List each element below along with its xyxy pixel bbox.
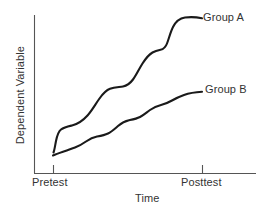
x-axis-title: Time [135,192,159,204]
x-tick-label-posttest: Posttest [181,176,222,188]
series-label-group-b: Group B [205,83,247,95]
series-line-group-a [54,17,203,152]
line-chart-figure: Group A Group B Pretest Posttest Time De… [0,0,267,215]
x-tick-label-pretest: Pretest [32,176,68,188]
y-axis-title: Dependent Variable [14,40,26,150]
series-label-group-a: Group A [203,11,244,23]
